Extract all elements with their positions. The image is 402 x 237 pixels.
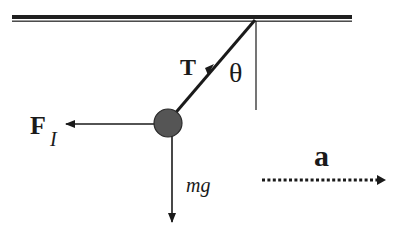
- acceleration-arrowhead-icon: [377, 175, 386, 185]
- inertial-force-subscript: I: [49, 128, 58, 150]
- tension-label: T: [180, 54, 196, 80]
- ceiling-thin-line: [12, 21, 352, 22]
- acceleration-label: a: [314, 139, 329, 172]
- weight-label: mg: [186, 174, 210, 197]
- ceiling: [12, 15, 352, 22]
- ceiling-thick-line: [12, 15, 352, 19]
- angle-label: θ: [229, 57, 242, 88]
- bob-mass: [154, 109, 182, 137]
- inertial-force-label: F: [30, 111, 46, 140]
- pendulum-diagram: T θ F I mg a: [0, 0, 402, 237]
